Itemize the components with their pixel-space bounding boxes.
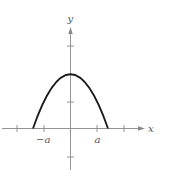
parabola-graph: y x −a a (0, 0, 170, 181)
x-axis-arrow-icon (138, 126, 145, 130)
y-axis-arrow-icon (68, 27, 72, 34)
pos-a-label: a (95, 134, 101, 145)
y-axis-label: y (67, 13, 74, 24)
neg-a-label: −a (36, 134, 50, 145)
x-axis-label: x (148, 123, 154, 134)
